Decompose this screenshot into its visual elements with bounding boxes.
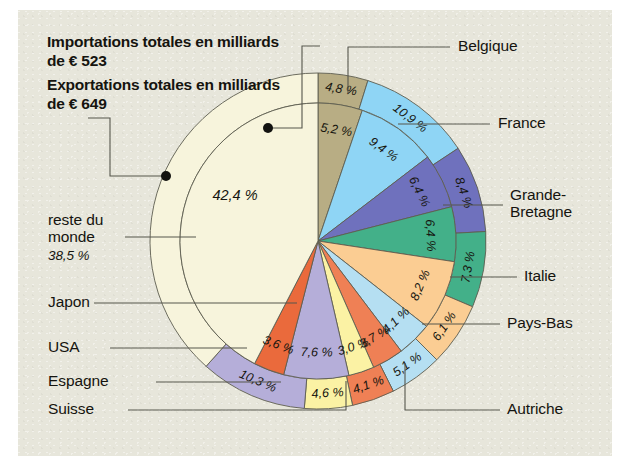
slice-percent-label: 42,4 % bbox=[212, 187, 257, 203]
label-belgique: Belgique bbox=[458, 37, 518, 54]
label-reste-du-monde-value: 38,5 % bbox=[48, 247, 89, 264]
leader-exports bbox=[88, 118, 166, 176]
label-espagne: Espagne bbox=[48, 372, 109, 389]
figure-root: 4,8 %10,9 %8,4 %7,3 %6,1 %5,1 %4,1 %4,6 … bbox=[0, 0, 629, 475]
leader-dot-exports bbox=[161, 171, 171, 181]
header-exports: Exportations totales en milliards de € 6… bbox=[47, 76, 297, 113]
label-pays-bas: Pays-Bas bbox=[507, 314, 573, 331]
slice-percent-label: 7,6 % bbox=[301, 345, 333, 359]
label-france: France bbox=[498, 114, 546, 131]
leader-dot-imports bbox=[263, 123, 273, 133]
label-grande-bretagne: Grande- Bretagne bbox=[510, 186, 572, 220]
label-italie: Italie bbox=[524, 267, 556, 284]
header-imports: Importations totales en milliards de € 5… bbox=[47, 33, 297, 70]
label-suisse: Suisse bbox=[48, 400, 94, 417]
label-autriche: Autriche bbox=[507, 400, 563, 417]
slice-percent-label: 4,6 % bbox=[311, 385, 344, 401]
label-reste-du-monde: reste du monde bbox=[48, 211, 103, 245]
slice-percent-label: 6,4 % bbox=[423, 219, 439, 252]
label-japon: Japon bbox=[48, 293, 90, 310]
label-usa: USA bbox=[48, 338, 80, 355]
